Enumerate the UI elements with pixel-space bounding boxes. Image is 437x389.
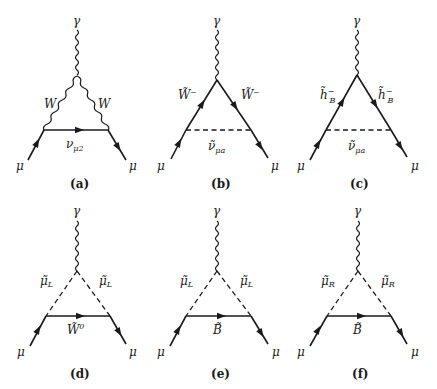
arrow-icon (76, 313, 85, 319)
panel-caption: (c) (350, 177, 369, 191)
photon-line (76, 221, 79, 271)
right-edge-label: W (98, 97, 112, 111)
arrow-icon (174, 137, 184, 148)
panel-e: γ μ̃L μ̃L B̃ μ μ (e) (157, 204, 280, 381)
left-edge-label: W (44, 97, 58, 111)
feynman-diagram-figure: γ W W νμ2 μ μ (a) γ (0, 0, 437, 389)
outgoing-muon-label: μ (411, 159, 419, 173)
incoming-muon-label: μ (16, 159, 24, 173)
panel-f: γ μ̃R μ̃R B̃ μ μ (f) (297, 204, 419, 381)
photon-label: γ (213, 204, 221, 218)
photon-line (357, 221, 360, 271)
smuon-left-line (186, 271, 217, 316)
panel-caption: (d) (70, 367, 90, 381)
photon-line (216, 221, 219, 271)
right-edge-label: μ̃L (240, 274, 253, 289)
bottom-edge-label: ν̃μa (348, 139, 365, 155)
photon-label: γ (73, 14, 81, 28)
outgoing-muon-label: μ (411, 345, 419, 359)
outgoing-muon-label: μ (129, 345, 137, 359)
arrow-icon (337, 96, 347, 107)
photon-label: γ (213, 14, 221, 28)
outgoing-muon-label: μ (129, 159, 137, 173)
arrow-icon (114, 327, 124, 338)
left-edge-label: h̃−B (320, 86, 335, 105)
arrow-icon (113, 142, 123, 153)
arrow-icon (396, 328, 406, 339)
left-edge-label: W̃⁻ (178, 87, 197, 102)
panel-d: γ μ̃L μ̃L W̃0 μ μ (d) (17, 204, 137, 381)
right-edge-label: μ̃R (381, 274, 395, 289)
photon-line (356, 30, 359, 75)
incoming-muon-label: μ (17, 345, 25, 359)
incoming-muon-label: μ (297, 159, 305, 173)
photon-line (216, 30, 219, 80)
right-edge-label: W̃⁻ (241, 87, 260, 102)
panel-caption: (a) (70, 177, 89, 191)
arrow-icon (32, 137, 42, 148)
bottom-edge-label: W̃0 (67, 322, 84, 337)
bottom-edge-label: νμ2 (66, 137, 84, 153)
bottom-edge-label: B̃ (212, 322, 222, 337)
right-edge-label: μ̃L (99, 274, 112, 289)
bottom-edge-label: B̃ (352, 322, 362, 337)
arrow-icon (357, 313, 366, 319)
smuon-left-line (46, 271, 77, 316)
smuon-left-line (327, 271, 358, 316)
photon-label: γ (354, 204, 362, 218)
panel-caption: (e) (211, 367, 230, 381)
photon-line (76, 30, 79, 75)
incoming-muon-label: μ (297, 345, 305, 359)
bottom-edge-label: ν̃μa (208, 139, 225, 155)
panel-caption: (f) (352, 367, 369, 381)
panel-a: γ W W νμ2 μ μ (a) (16, 14, 137, 191)
panel-c: γ h̃−B h̃−B ν̃μa μ μ (c) (297, 14, 419, 191)
panel-caption: (b) (211, 177, 231, 191)
photon-label: γ (73, 204, 81, 218)
panel-b: γ W̃⁻ W̃⁻ ν̃μa μ μ (b) (157, 14, 279, 191)
incoming-muon-label: μ (157, 345, 165, 359)
arrow-icon (217, 313, 226, 319)
incoming-muon-label: μ (157, 159, 165, 173)
left-edge-label: μ̃L (180, 274, 193, 289)
arrow-icon (197, 98, 207, 109)
right-edge-label: h̃−B (378, 86, 393, 105)
photon-label: γ (353, 14, 361, 28)
left-edge-label: μ̃R (321, 274, 335, 289)
outgoing-muon-label: μ (271, 159, 279, 173)
left-edge-label: μ̃L (40, 274, 53, 289)
arrow-icon (75, 127, 84, 133)
outgoing-muon-label: μ (272, 345, 280, 359)
